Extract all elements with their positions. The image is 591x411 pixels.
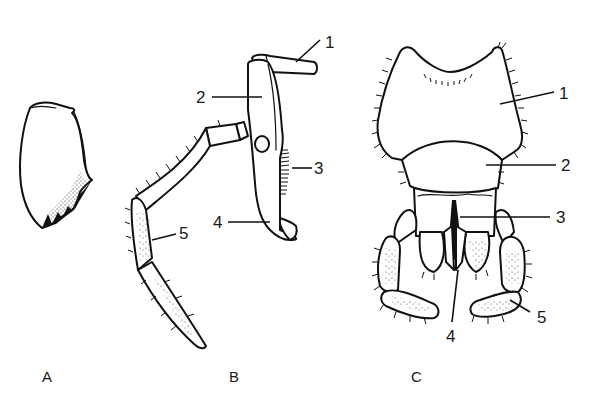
panel-letter-a: A — [42, 369, 52, 384]
panel-letter-c: C — [411, 369, 422, 384]
figure-drawing — [0, 0, 591, 411]
panel-c-label-3: 3 — [556, 209, 565, 226]
panel-c-label-4: 4 — [446, 328, 455, 345]
panel-b-label-4: 4 — [213, 214, 222, 231]
mouthparts-figure: 1 2 3 4 5 1 2 3 4 5 A B C — [0, 0, 591, 411]
panel-c-label-2: 2 — [561, 157, 570, 174]
panel-b-label-3: 3 — [314, 160, 323, 177]
panel-b-label-1: 1 — [325, 34, 334, 51]
panel-letter-b: B — [229, 369, 239, 384]
panel-c-label-5: 5 — [537, 309, 546, 326]
maxilla-drawing — [125, 40, 320, 348]
panel-b-label-5: 5 — [179, 225, 188, 242]
labium-drawing — [372, 42, 556, 324]
panel-c-label-1: 1 — [559, 85, 568, 102]
mandible-drawing — [20, 103, 92, 228]
panel-b-label-2: 2 — [196, 89, 205, 106]
